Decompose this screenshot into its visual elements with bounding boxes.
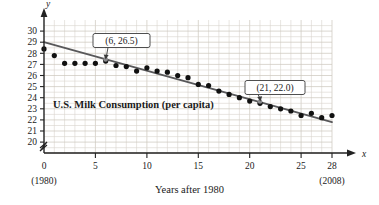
y-tick-label: 24 xyxy=(28,93,38,103)
data-point xyxy=(329,113,334,118)
plot-annotation-label: U.S. Milk Consumption (per capita) xyxy=(53,99,214,110)
data-point xyxy=(165,70,170,75)
data-point xyxy=(299,113,304,118)
x-tick-marks xyxy=(95,153,332,158)
callout-right-label: (21, 22.0) xyxy=(256,83,293,94)
data-point xyxy=(309,111,314,116)
y-tick-label: 27 xyxy=(28,60,38,70)
data-point xyxy=(288,108,293,113)
x-axis-arrow xyxy=(347,150,356,157)
y-axis-variable: y xyxy=(45,0,51,9)
data-point xyxy=(72,61,77,66)
data-point xyxy=(83,61,88,66)
y-tick-label: 30 xyxy=(28,26,38,36)
data-point xyxy=(113,63,118,68)
data-point xyxy=(134,69,139,74)
data-point xyxy=(175,73,180,78)
data-point xyxy=(216,89,221,94)
y-tick-label: 21 xyxy=(28,126,38,136)
x-tick-label: 20 xyxy=(245,161,255,171)
data-point xyxy=(206,83,211,88)
x-tick-label: 28 xyxy=(327,161,337,171)
x-axis-title: Years after 1980 xyxy=(0,184,379,195)
chart-figure: (6, 26.5) (21, 22.0) 30 29 28 27 26 25 2… xyxy=(0,0,379,205)
data-point xyxy=(319,115,324,120)
data-point xyxy=(278,106,283,111)
y-axis-arrow xyxy=(41,8,48,17)
x-axis-variable: x xyxy=(361,149,367,159)
data-point xyxy=(62,61,67,66)
y-tick-label: 28 xyxy=(28,49,38,59)
y-tick-label: 22 xyxy=(28,115,38,125)
y-tick-label: 29 xyxy=(28,37,38,47)
y-axis-title-text: Gallons of milk xyxy=(0,0,10,18)
y-axis-title: Gallons of milk xyxy=(0,0,10,18)
data-point xyxy=(185,75,190,80)
x-tick-label: 15 xyxy=(194,161,204,171)
data-point xyxy=(268,104,273,109)
x-tick-label: 0 xyxy=(42,161,47,171)
x-tick-labels: 0 5 10 15 20 25 28 xyxy=(42,161,337,171)
data-point xyxy=(196,82,201,87)
callout-left-label: (6, 26.5) xyxy=(105,36,137,47)
x-tick-label: 25 xyxy=(296,161,306,171)
data-point xyxy=(155,69,160,74)
x-tick-label: 5 xyxy=(93,161,98,171)
y-tick-label: 20 xyxy=(28,137,38,147)
data-point xyxy=(227,92,232,97)
data-point xyxy=(237,95,242,100)
y-tick-label: 26 xyxy=(28,71,38,81)
data-point xyxy=(247,99,252,104)
y-tick-labels: 30 29 28 27 26 25 24 23 22 21 20 xyxy=(28,26,38,147)
data-point xyxy=(144,65,149,70)
data-point xyxy=(124,64,129,69)
y-tick-label: 25 xyxy=(28,82,38,92)
x-tick-label: 10 xyxy=(142,161,152,171)
y-tick-label: 23 xyxy=(28,104,38,114)
data-point xyxy=(93,61,98,66)
data-point xyxy=(52,53,57,58)
